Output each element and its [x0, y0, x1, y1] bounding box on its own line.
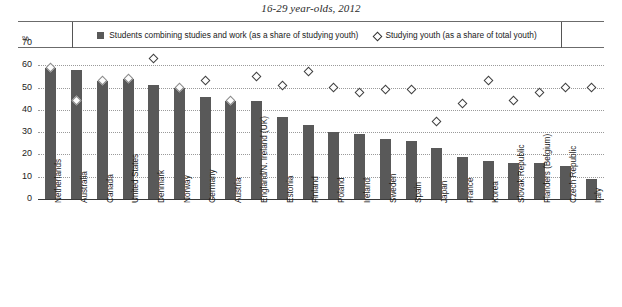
x-label-germany: Germany [208, 169, 217, 203]
diamond-korea [483, 76, 493, 86]
diamond-spain [406, 85, 416, 95]
x-label-japan: Japan [440, 181, 449, 203]
y-tick-10: 10 [6, 171, 32, 181]
diamond-england-n-ireland-uk [252, 71, 262, 81]
legend-label-studying-youth: Studying youth (as a share of total yout… [385, 30, 536, 40]
x-label-australia: Australia [80, 171, 89, 203]
diamond-japan [432, 116, 442, 126]
y-tick-60: 60 [6, 59, 32, 69]
diamond-estonia [277, 80, 287, 90]
x-label-netherlands: Netherlands [54, 159, 63, 203]
y-tick-70: 70 [6, 37, 32, 47]
legend-item-studying-youth: Studying youth (as a share of total yout… [372, 30, 536, 40]
x-label-denmark: Denmark [157, 170, 166, 203]
chart-title: 16-29 year-olds, 2012 [0, 2, 622, 14]
legend-label-students-combining: Students combining studies and work (as … [109, 30, 358, 40]
x-label-italy: Italy [594, 188, 603, 203]
diamond-czech-republic [560, 83, 570, 93]
diamond-slovak-republic [509, 96, 519, 106]
x-label-norway: Norway [183, 175, 192, 203]
chart-figure: 16-29 year-olds, 2012 Students combining… [0, 0, 622, 307]
x-label-canada: Canada [106, 174, 115, 203]
x-label-sweden: Sweden [389, 173, 398, 203]
x-label-czech-republic: Czech Republic [569, 146, 578, 203]
x-label-poland: Poland [337, 178, 346, 204]
y-tick-30: 30 [6, 126, 32, 136]
diamond-finland [303, 67, 313, 77]
diamond-germany [200, 76, 210, 86]
x-label-england-n-ireland-uk: England/N. Ireland (UK) [260, 116, 269, 203]
chart-legend: Students combining studies and work (as … [72, 22, 562, 48]
legend-item-students-combining: Students combining studies and work (as … [97, 30, 358, 40]
y-tick-0: 0 [6, 193, 32, 203]
y-tick-50: 50 [6, 82, 32, 92]
x-label-united-states: United States [131, 154, 140, 203]
x-label-austria: Austria [234, 178, 243, 203]
diamond-france [458, 98, 468, 108]
x-label-ireland: Ireland [363, 178, 372, 203]
diamond-italy [586, 83, 596, 93]
x-label-finland: Finland [311, 176, 320, 203]
diamond-sweden [380, 85, 390, 95]
diamond-poland [329, 83, 339, 93]
x-label-flanders-belgium: Flanders (Belgium) [543, 134, 552, 203]
x-label-spain: Spain [414, 182, 423, 203]
diamond-denmark [149, 54, 159, 64]
open-diamond-icon [372, 31, 380, 39]
x-label-france: France [466, 178, 475, 203]
filled-square-icon [97, 32, 104, 39]
y-tick-40: 40 [6, 104, 32, 114]
gridline-60 [38, 65, 604, 66]
x-label-korea: Korea [491, 181, 500, 203]
x-label-estonia: Estonia [286, 176, 295, 203]
x-label-slovak-republic: Slovak Republic [517, 144, 526, 203]
y-tick-20: 20 [6, 148, 32, 158]
